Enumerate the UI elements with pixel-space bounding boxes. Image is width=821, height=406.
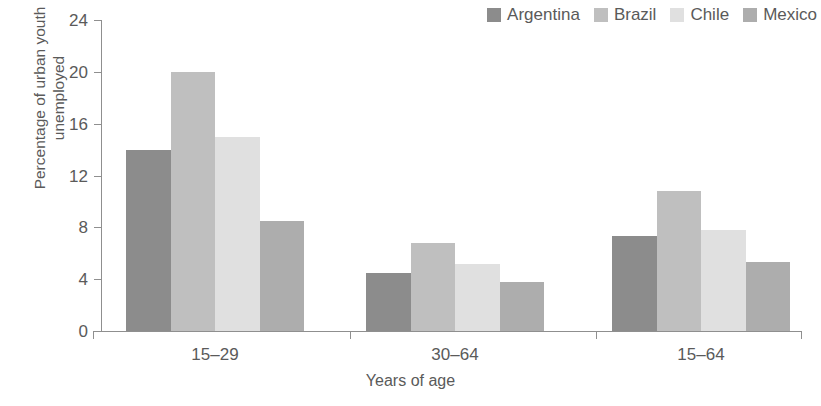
y-tick-label: 24 — [28, 12, 88, 29]
x-tick-label: 15–64 — [621, 346, 781, 363]
bar-mexico-15-29 — [260, 221, 305, 331]
y-tick-label: 12 — [28, 168, 88, 185]
bar-argentina-15-29 — [126, 150, 171, 331]
x-tick-label: 15–29 — [135, 346, 295, 363]
bar-argentina-15-64 — [612, 236, 657, 331]
bars-layer — [101, 20, 801, 331]
x-tick-mark — [596, 331, 597, 339]
x-axis-line — [93, 331, 801, 332]
x-tick-mark — [93, 331, 94, 339]
bar-chile-30-64 — [455, 264, 500, 331]
y-tick-mark — [94, 20, 101, 21]
x-tick-mark — [801, 331, 802, 339]
y-tick-mark — [94, 227, 101, 228]
y-tick-mark — [94, 331, 101, 332]
bar-brazil-15-64 — [657, 191, 702, 331]
plot-area: 04812162024 15–2930–6415–64 — [101, 20, 801, 331]
y-tick-label: 20 — [28, 64, 88, 81]
y-tick-label: 4 — [28, 271, 88, 288]
y-tick-label: 8 — [28, 219, 88, 236]
y-tick-mark — [94, 72, 101, 73]
y-tick-mark — [94, 176, 101, 177]
bar-mexico-30-64 — [500, 282, 545, 331]
bar-chart: ArgentinaBrazilChileMexico Percentage of… — [0, 0, 821, 406]
bar-brazil-15-29 — [171, 72, 216, 331]
x-tick-mark — [350, 331, 351, 339]
y-axis-title-line1: Percentage of urban youth — [31, 7, 48, 190]
bar-brazil-30-64 — [411, 243, 456, 331]
bar-chile-15-29 — [215, 137, 260, 331]
y-tick-label: 16 — [28, 116, 88, 133]
bar-argentina-30-64 — [366, 273, 411, 331]
x-tick-label: 30–64 — [375, 346, 535, 363]
bar-mexico-15-64 — [746, 262, 791, 331]
x-axis-title: Years of age — [0, 372, 821, 390]
bar-chile-15-64 — [701, 230, 746, 331]
y-tick-mark — [94, 279, 101, 280]
y-tick-mark — [94, 124, 101, 125]
y-tick-label: 0 — [28, 323, 88, 340]
